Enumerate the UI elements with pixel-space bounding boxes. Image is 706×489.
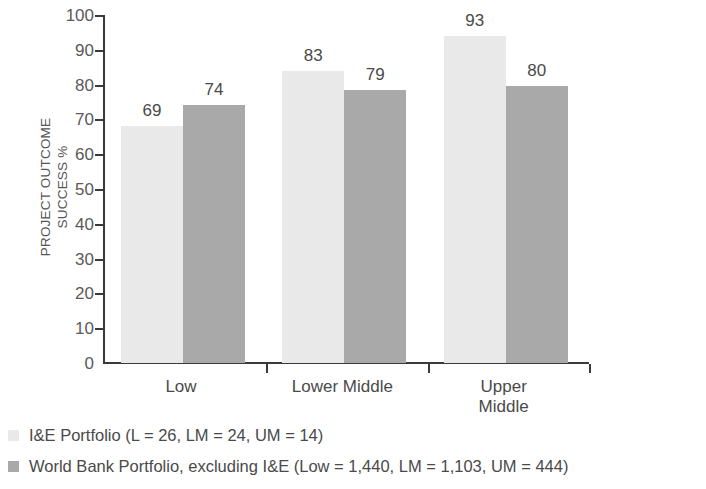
y-tick-label: 0 <box>52 355 94 372</box>
bar-value-label: 93 <box>444 12 506 29</box>
y-tick-label: 10 <box>52 320 94 337</box>
legend-swatch-icon <box>8 461 19 472</box>
legend-label: World Bank Portfolio, excluding I&E (Low… <box>29 458 568 475</box>
y-tick-label: 90 <box>52 41 94 58</box>
bar-value-label: 74 <box>183 81 245 98</box>
x-axis-end-tick <box>589 364 591 373</box>
y-tick-label: 30 <box>52 250 94 267</box>
x-category-label: Upper Middle <box>461 377 546 418</box>
bar-upper-middle-series-2 <box>506 86 568 363</box>
y-axis-tick-labels: 0102030405060708090100 <box>52 0 94 380</box>
y-tick-mark <box>95 119 104 121</box>
y-tick-mark <box>95 85 104 87</box>
y-tick-mark <box>95 328 104 330</box>
y-tick-mark <box>95 293 104 295</box>
y-tick-mark <box>95 15 104 17</box>
bar-chart-figure: PROJECT OUTCOME SUCCESS % 01020304050607… <box>0 0 706 489</box>
x-category-tick <box>266 364 268 373</box>
bar-lower-middle-series-1 <box>282 71 344 363</box>
legend-item-1[interactable]: I&E Portfolio (L = 26, LM = 24, UM = 14) <box>8 420 706 451</box>
y-tick-mark <box>95 154 104 156</box>
y-tick-label: 60 <box>52 146 94 163</box>
y-tick-label: 80 <box>52 76 94 93</box>
legend-swatch-icon <box>8 430 19 441</box>
bar-value-label: 79 <box>344 66 406 83</box>
y-tick-label: 40 <box>52 215 94 232</box>
bar-upper-middle-series-1 <box>444 36 506 363</box>
y-tick-label: 20 <box>52 285 94 302</box>
bar-value-label: 80 <box>506 62 568 79</box>
y-tick-label: 50 <box>52 181 94 198</box>
chart-legend: I&E Portfolio (L = 26, LM = 24, UM = 14)… <box>8 420 706 482</box>
x-axis-category-labels: LowLower MiddleUpper Middle <box>103 377 589 403</box>
plot-area: 697483799380 <box>105 15 589 363</box>
y-tick-label: 70 <box>52 111 94 128</box>
y-tick-mark <box>95 259 104 261</box>
y-tick-mark <box>95 189 104 191</box>
x-category-label: Lower Middle <box>292 377 393 397</box>
x-category-tick <box>428 364 430 373</box>
bar-value-label: 83 <box>282 47 344 64</box>
legend-label: I&E Portfolio (L = 26, LM = 24, UM = 14) <box>29 427 323 444</box>
legend-item-2[interactable]: World Bank Portfolio, excluding I&E (Low… <box>8 451 706 482</box>
bar-low-series-2 <box>183 105 245 363</box>
y-tick-mark <box>95 224 104 226</box>
y-tick-mark <box>95 50 104 52</box>
bar-value-label: 69 <box>121 102 183 119</box>
bar-lower-middle-series-2 <box>344 90 406 363</box>
bar-low-series-1 <box>121 126 183 363</box>
y-tick-label: 100 <box>52 7 94 24</box>
x-category-label: Low <box>165 377 196 397</box>
